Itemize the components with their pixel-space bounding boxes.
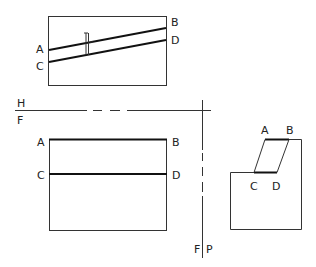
- front-view-outline: [50, 140, 167, 231]
- axis-label-f-horizontal: F: [17, 114, 23, 127]
- front-label-b: B: [172, 136, 180, 149]
- side-view-line-bd: [277, 140, 289, 173]
- front-label-a: A: [37, 136, 45, 149]
- side-view-line-ac: [254, 140, 265, 173]
- front-label-c: C: [37, 169, 45, 182]
- axis-label-p: P: [206, 243, 213, 256]
- front-view: A C B D: [37, 136, 180, 231]
- top-label-c: C: [36, 60, 44, 73]
- side-label-d: D: [272, 180, 280, 193]
- side-label-b: B: [286, 124, 294, 137]
- top-label-b: B: [171, 16, 179, 29]
- projection-drawing: A C B D H F F P A C B D A B: [0, 0, 316, 267]
- top-view: A C B D: [36, 16, 179, 86]
- top-label-a: A: [36, 43, 44, 56]
- top-label-d: D: [171, 34, 179, 47]
- top-view-line-ab: [49, 28, 166, 50]
- projection-axes: H F F P: [15, 97, 213, 258]
- axis-label-f-vertical: F: [194, 243, 200, 256]
- axis-label-h: H: [17, 97, 25, 110]
- side-view-outline: [231, 140, 302, 230]
- side-label-a: A: [261, 124, 269, 137]
- top-view-line-cd: [49, 40, 166, 62]
- front-label-d: D: [172, 169, 180, 182]
- side-view: A B C D: [231, 124, 302, 230]
- side-label-c: C: [250, 180, 258, 193]
